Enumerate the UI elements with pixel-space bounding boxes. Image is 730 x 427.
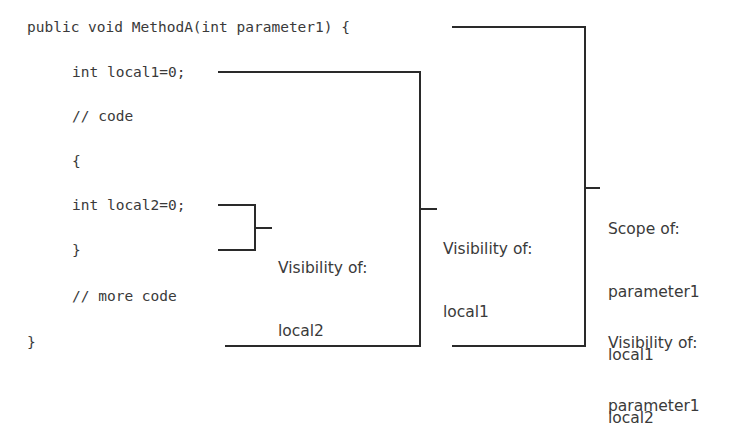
- code-line-comment-more-code: // more code: [72, 287, 177, 305]
- bracket-local2-tick: [254, 227, 272, 229]
- label-visibility-parameter1: Visibility of: parameter1: [608, 291, 700, 427]
- code-line-close-brace-inner: }: [72, 241, 81, 259]
- label-visibility-local1-line2: local1: [443, 302, 533, 323]
- label-visibility-local1-line1: Visibility of:: [443, 239, 533, 260]
- label-visibility-local2-line1: Visibility of:: [278, 258, 368, 279]
- label-visibility-parameter1-line2: parameter1: [608, 396, 700, 417]
- label-visibility-parameter1-line1: Visibility of:: [608, 333, 700, 354]
- label-scope-line1: Scope of:: [608, 219, 700, 240]
- code-line-local1: int local1=0;: [72, 63, 186, 81]
- bracket-local1-tick: [419, 208, 437, 210]
- bracket-local1-bottom: [225, 345, 421, 347]
- code-line-comment-code: // code: [72, 107, 133, 125]
- code-line-method-signature: public void MethodA(int parameter1) {: [27, 18, 350, 36]
- bracket-local1-top: [218, 71, 421, 73]
- bracket-method-bottom: [452, 345, 586, 347]
- code-line-close-brace-outer: }: [27, 333, 36, 351]
- code-line-local2: int local2=0;: [72, 196, 186, 214]
- label-visibility-local1: Visibility of: local1: [443, 197, 533, 344]
- code-line-open-brace: {: [72, 152, 81, 170]
- bracket-local2-bottom: [218, 249, 256, 251]
- label-visibility-local2: Visibility of: local2: [278, 216, 368, 363]
- label-visibility-local2-line2: local2: [278, 321, 368, 342]
- bracket-local2-top: [218, 204, 256, 206]
- bracket-method-top: [452, 26, 586, 28]
- bracket-method-tick: [584, 187, 600, 189]
